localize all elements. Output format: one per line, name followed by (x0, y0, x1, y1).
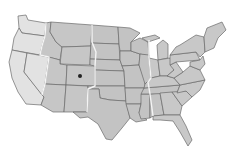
state-new-mexico (64, 85, 88, 112)
state-florida (153, 115, 192, 146)
us-timezone-map (0, 0, 236, 159)
state-north-dakota (91, 25, 119, 44)
state-arizona (41, 84, 66, 112)
eastern-zone (142, 22, 226, 146)
mountain-zone (40, 22, 95, 112)
location-marker-icon[interactable] (78, 74, 82, 78)
state-mississippi (139, 94, 150, 119)
state-new-england (204, 22, 226, 52)
state-wyoming (60, 46, 91, 65)
state-kansas (95, 70, 125, 86)
state-south-dakota (90, 43, 120, 60)
